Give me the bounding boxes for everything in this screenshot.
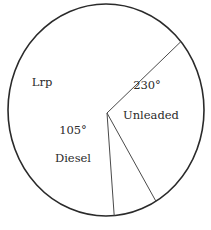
slice-value-label-diesel: 105° (59, 123, 87, 137)
slice-name-label-lrp: Lrp (32, 75, 53, 89)
slice-value-label-unleaded: 230° (133, 78, 161, 92)
slice-name-label-unleaded: Unleaded (123, 108, 180, 122)
pie-chart: 230° Unleaded 105° Diesel Lrp (0, 0, 211, 230)
slice-name-label-diesel: Diesel (55, 151, 91, 165)
